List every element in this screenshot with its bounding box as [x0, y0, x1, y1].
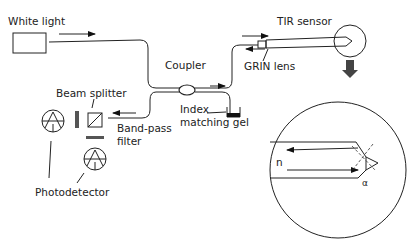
band-pass-label-line1: Band-pass — [117, 122, 172, 134]
zoom-region-circle — [334, 25, 366, 57]
index-label-line2: matching gel — [180, 116, 249, 128]
photodetector-label: Photodetector — [35, 186, 110, 198]
beam-splitter: Beam splitter — [56, 87, 127, 127]
return-ray-arrow-icon — [287, 148, 358, 150]
refractive-index-label: n — [276, 156, 283, 168]
white-light-label: White light — [8, 15, 65, 27]
photodetector-1 — [42, 110, 64, 178]
zoom-down-arrow-icon — [342, 60, 358, 78]
angle-alpha-label: α — [362, 178, 368, 188]
tir-sensor-label: TIR sensor — [276, 15, 333, 27]
index-label-line1: Index — [180, 103, 209, 115]
coupler: Coupler — [165, 59, 206, 95]
band-pass-label-line2: filter — [117, 135, 142, 147]
beam-splitter-label: Beam splitter — [56, 87, 127, 99]
optical-setup-diagram: White light Coupler Index matching gel T… — [0, 0, 413, 242]
magnified-tip-view: n α — [270, 102, 406, 238]
grin-lens-label: GRIN lens — [244, 60, 295, 72]
input-fiber — [49, 40, 180, 88]
white-light-source: White light — [8, 15, 95, 53]
index-matching-gel: Index matching gel — [180, 103, 249, 128]
photodetector-2 — [77, 148, 106, 183]
band-pass-filter-horizontal — [86, 136, 104, 139]
coupler-label: Coupler — [165, 59, 206, 71]
band-pass-filter-vertical — [75, 111, 79, 128]
